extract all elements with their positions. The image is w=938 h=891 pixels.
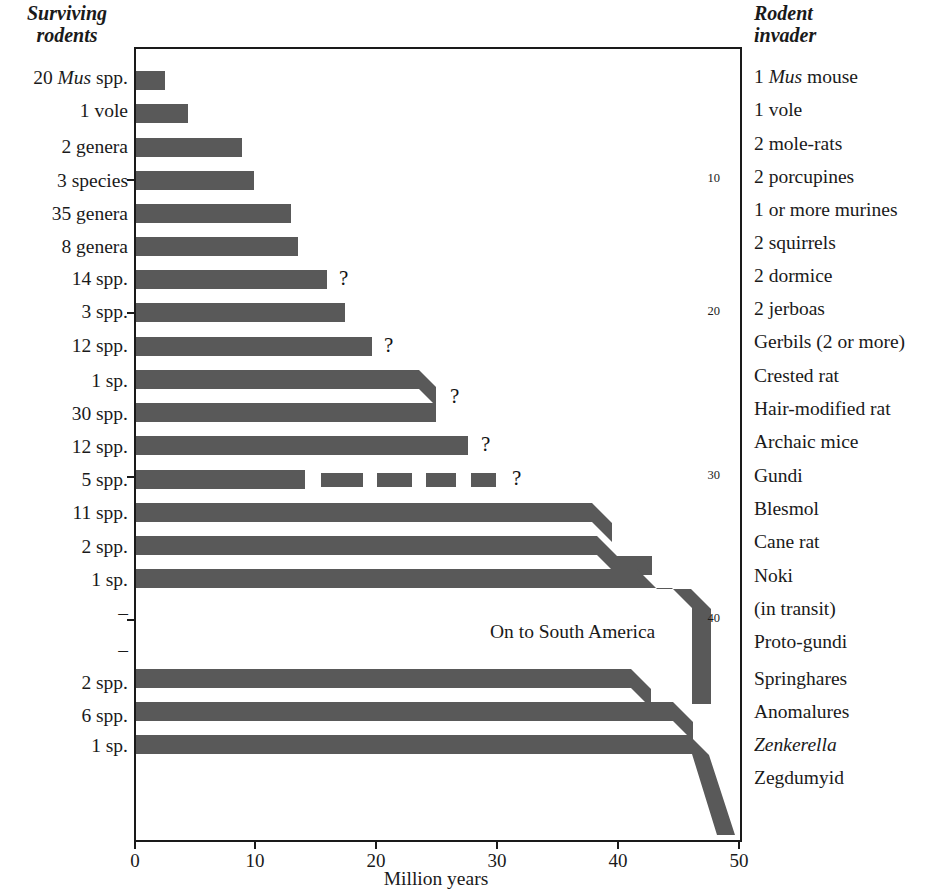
invader-label-10: Hair-modified rat [754,399,891,419]
x-tick-mark-20 [375,840,377,849]
invader-label-6: 2 dormice [754,266,833,286]
invader-label-15: Noki [754,566,793,586]
on-to-south-america-note: On to South America [490,622,655,642]
x-axis-title: Million years [134,869,738,889]
invader-label-3: 2 porcupines [754,167,854,187]
invader-label-21: Zegdumyid [754,768,844,788]
invader-label-8: Gerbils (2 or more) [754,332,905,352]
question-mark-row-11: ? [481,434,490,455]
x-tick-label-50: 50 [714,851,764,870]
question-mark-row-12: ? [512,468,521,489]
invader-label-7: 2 jerboas [754,299,825,319]
right-column-heading: Rodent invader [754,2,938,46]
invader-label-0: 1 Mus mouse [754,67,858,87]
x-tick-label-0: 0 [110,851,160,870]
invader-label-17: Proto-gundi [754,632,847,652]
chart-canvas: Surviving rodents Rodent invader 20 Mus … [0,0,938,891]
invader-label-12: Gundi [754,466,803,486]
y-tick-mark-10 [127,179,136,181]
question-mark-row-6: ? [339,268,348,289]
invader-label-4: 1 or more murines [754,200,898,220]
x-tick-mark-40 [617,840,619,849]
surviving-label-15: 1 sp. [91,570,128,590]
surviving-label-13: 11 spp. [72,503,128,523]
surviving-label-6: 14 spp. [72,269,128,289]
surviving-label-20: 1 sp. [91,736,128,756]
y-tick-label-40: 40 [694,612,720,624]
y-tick-label-20: 20 [694,305,720,317]
y-tick-mark-30 [127,476,136,478]
surviving-label-7: 3 spp. [81,302,128,322]
surviving-label-11: 12 spp. [72,437,128,457]
x-tick-label-10: 10 [230,851,280,870]
invader-label-18: Springhares [754,669,847,689]
surviving-label-4: 35 genera [52,204,128,224]
invader-label-16: (in transit) [754,599,836,619]
stepped-cluster-lower [136,49,740,840]
left-column-heading: Surviving rodents [6,2,128,46]
x-tick-label-40: 40 [593,851,643,870]
surviving-label-19: 6 spp. [81,706,128,726]
surviving-label-3: 3 species [57,171,128,191]
surviving-label-8: 12 spp. [72,336,128,356]
x-tick-mark-0 [134,840,136,849]
y-tick-label-10: 10 [694,172,720,184]
invader-label-1: 1 vole [754,100,802,120]
invader-label-14: Cane rat [754,532,820,552]
question-mark-row-8: ? [384,335,393,356]
x-tick-mark-50 [738,840,740,849]
surviving-label-2: 2 genera [61,137,128,157]
x-tick-mark-10 [254,840,256,849]
surviving-label-10: 30 spp. [72,404,128,424]
surviving-label-12: 5 spp. [81,470,128,490]
surviving-label-14: 2 spp. [81,537,128,557]
invader-label-11: Archaic mice [754,432,858,452]
invader-label-19: Anomalures [754,702,849,722]
surviving-label-0: 20 Mus spp. [33,68,128,88]
surviving-label-5: 8 genera [61,237,128,257]
y-tick-mark-40 [127,619,136,621]
invader-label-9: Crested rat [754,366,839,386]
plot-inner: ? ? ? ? ? On to South America [136,49,740,840]
invader-label-13: Blesmol [754,499,819,519]
x-tick-mark-30 [496,840,498,849]
surviving-label-18: 2 spp. [81,673,128,693]
plot-frame: ? ? ? ? ? On to South America [134,47,742,842]
surviving-label-1: 1 vole [80,101,128,121]
invader-label-5: 2 squirrels [754,233,836,253]
invader-label-2: 2 mole-rats [754,134,842,154]
invader-label-20: Zenkerella [754,735,837,755]
question-mark-row-9: ? [450,386,459,407]
surviving-label-9: 1 sp. [91,371,128,391]
y-tick-mark-20 [127,312,136,314]
surviving-label-17: – [118,640,128,660]
y-tick-label-30: 30 [694,469,720,481]
